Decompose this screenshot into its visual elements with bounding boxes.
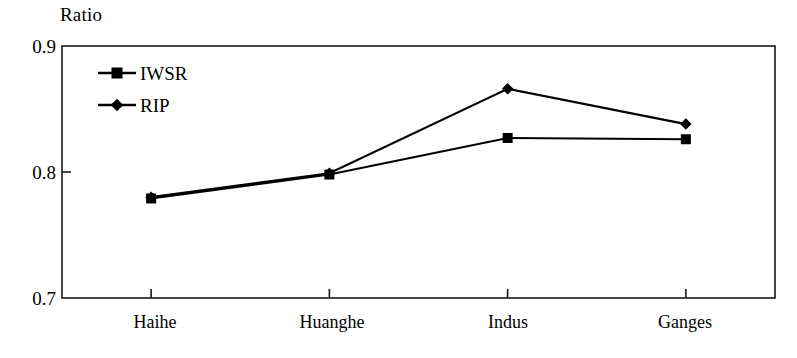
y-axis-tick-label-0.9: 0.9: [10, 37, 56, 56]
legend-item-label-iwsr: IWSR: [140, 64, 188, 83]
x-axis-tick-label-haihe: Haihe: [134, 312, 177, 332]
legend-marker-iwsr: [98, 68, 136, 79]
x-axis-tick-label-indus: Indus: [488, 312, 528, 332]
axis-ticks: [62, 172, 686, 298]
plot-area: [0, 0, 797, 358]
y-axis-tick-label-0.7: 0.7: [10, 289, 56, 308]
legend-marker-rip: [98, 99, 136, 112]
x-axis-tick-label-ganges: Ganges: [658, 312, 712, 332]
series-iwsr: [146, 133, 691, 203]
data-series-group: [145, 83, 691, 203]
line-chart: Ratio 0.9 0.8 0.7 Haihe Huanghe Indus Ga…: [0, 0, 797, 358]
series-rip: [145, 83, 691, 203]
y-axis-title: Ratio: [60, 4, 102, 26]
y-axis-tick-labels: 0.9 0.8 0.7: [8, 0, 56, 358]
x-axis-tick-label-huanghe: Huanghe: [300, 312, 365, 332]
legend-item-label-rip: RIP: [140, 96, 170, 115]
legend-marker-group: [98, 68, 136, 112]
y-axis-tick-label-0.8: 0.8: [10, 163, 56, 182]
